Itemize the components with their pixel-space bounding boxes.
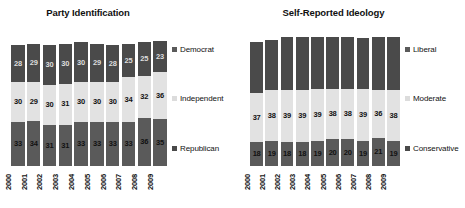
- bar-segment-independent-2003[interactable]: 31: [59, 84, 72, 125]
- bar-segment-conservative-2007[interactable]: [357, 38, 370, 89]
- bar-column-spacer: [357, 28, 370, 38]
- bar-segment-liberal-2007[interactable]: 19: [357, 141, 370, 166]
- bar-segment-conservative-2009[interactable]: [387, 37, 400, 90]
- bar-segment-republican-2008[interactable]: 25: [138, 42, 151, 75]
- bar-segment-democrat-2006[interactable]: 33: [106, 122, 119, 166]
- bar-segment-independent-2007[interactable]: 34: [122, 77, 135, 122]
- bar-segment-liberal-2000[interactable]: 18: [250, 142, 263, 166]
- bar-segment-liberal-2006[interactable]: 20: [341, 139, 354, 166]
- bar-segment-liberal-2001[interactable]: 19: [265, 141, 278, 166]
- bar-segment-conservative-2006[interactable]: [341, 37, 354, 89]
- bar-segment-conservative-2008[interactable]: [372, 37, 385, 90]
- bar-segment-liberal-2008[interactable]: 21: [372, 138, 385, 166]
- bar-column-spacer: [372, 28, 385, 37]
- legend-item-democrat[interactable]: Democrat: [172, 45, 214, 54]
- panel-title-self-reported-ideology: Self-Reported Ideology: [241, 7, 426, 18]
- bar-column-2000[interactable]: 283033: [10, 28, 26, 166]
- bar-segment-moderate-2005[interactable]: 38: [326, 89, 339, 140]
- bar-segment-conservative-2004[interactable]: [311, 37, 324, 89]
- bar-segment-liberal-2009[interactable]: 19: [387, 141, 400, 166]
- legend-item-liberal[interactable]: Liberal: [405, 45, 436, 54]
- x-tick-label: 2008: [364, 174, 373, 190]
- legend-item-conservative[interactable]: Conservative: [405, 144, 459, 153]
- bar-segment-moderate-2001[interactable]: 38: [265, 90, 278, 141]
- bar-value-label: 30: [14, 98, 22, 106]
- bar-segment-independent-2001[interactable]: 29: [27, 82, 40, 121]
- bar-segment-republican-2002[interactable]: 30: [43, 45, 56, 85]
- legend-item-republican[interactable]: Republican: [172, 144, 219, 153]
- bar-segment-liberal-2003[interactable]: 18: [296, 142, 309, 166]
- bar-column-spacer: [122, 28, 135, 44]
- legend-item-moderate[interactable]: Moderate: [405, 94, 446, 103]
- bar-segment-liberal-2002[interactable]: 18: [281, 142, 294, 166]
- bar-column-2000[interactable]: 3718: [249, 28, 264, 166]
- bar-segment-republican-2003[interactable]: 30: [59, 44, 72, 84]
- bar-segment-democrat-2003[interactable]: 31: [59, 125, 72, 166]
- bar-segment-republican-2001[interactable]: 29: [27, 44, 40, 83]
- bar-segment-democrat-2001[interactable]: 34: [27, 121, 40, 166]
- bar-column-2009[interactable]: 3819: [386, 28, 401, 166]
- bar-segment-independent-2009[interactable]: 36: [153, 72, 166, 120]
- bar-column-2008[interactable]: 253236: [136, 28, 152, 166]
- bar-segment-moderate-2004[interactable]: 39: [311, 89, 324, 141]
- bar-column-2007[interactable]: 3919: [355, 28, 370, 166]
- bar-segment-independent-2002[interactable]: 30: [43, 85, 56, 125]
- bar-column-2008[interactable]: 3621: [371, 28, 386, 166]
- bar-column-2005[interactable]: 293033: [89, 28, 105, 166]
- bar-segment-moderate-2006[interactable]: 38: [341, 89, 354, 140]
- bar-column-2004[interactable]: 3919: [310, 28, 325, 166]
- bar-column-2009[interactable]: 233635: [152, 28, 168, 166]
- bar-value-label: 28: [14, 60, 22, 68]
- bar-segment-democrat-2007[interactable]: 33: [122, 122, 135, 166]
- bar-value-label: 30: [46, 61, 54, 69]
- bar-segment-democrat-2004[interactable]: 33: [74, 122, 87, 166]
- bar-value-label: 19: [389, 150, 397, 158]
- bar-segment-republican-2000[interactable]: 28: [11, 45, 24, 82]
- bar-segment-moderate-2008[interactable]: 36: [372, 90, 385, 138]
- bar-column-2001[interactable]: 292934: [26, 28, 42, 166]
- bar-segment-conservative-2000[interactable]: [250, 42, 263, 93]
- bar-segment-democrat-2008[interactable]: 36: [138, 118, 151, 166]
- bar-segment-liberal-2005[interactable]: 20: [326, 139, 339, 166]
- bar-column-2004[interactable]: 303033: [73, 28, 89, 166]
- bar-column-2002[interactable]: 303031: [42, 28, 58, 166]
- bar-segment-moderate-2000[interactable]: 37: [250, 93, 263, 142]
- bar-segment-moderate-2003[interactable]: 39: [296, 90, 309, 142]
- bar-column-spacer: [11, 28, 24, 45]
- legend-swatch-icon: [405, 146, 410, 151]
- panel-party-identification: Party Identification 2830332929343030313…: [0, 0, 233, 208]
- bar-segment-democrat-2002[interactable]: 31: [43, 125, 56, 166]
- bar-column-2007[interactable]: 253433: [121, 28, 137, 166]
- bar-segment-independent-2006[interactable]: 30: [106, 82, 119, 122]
- bar-segment-republican-2006[interactable]: 28: [106, 45, 119, 82]
- bar-segment-republican-2005[interactable]: 29: [90, 44, 103, 83]
- bar-segment-moderate-2002[interactable]: 39: [281, 90, 294, 142]
- bar-segment-independent-2004[interactable]: 30: [74, 82, 87, 122]
- bar-segment-republican-2009[interactable]: 23: [153, 41, 166, 72]
- bar-segment-independent-2005[interactable]: 30: [90, 82, 103, 122]
- bar-column-2001[interactable]: 3819: [264, 28, 279, 166]
- bar-column-2005[interactable]: 3820: [325, 28, 340, 166]
- bar-column-spacer: [106, 28, 119, 45]
- bar-column-2006[interactable]: 283033: [105, 28, 121, 166]
- bar-segment-conservative-2001[interactable]: [265, 40, 278, 91]
- bar-column-2002[interactable]: 3918: [279, 28, 294, 166]
- bar-segment-independent-2000[interactable]: 30: [11, 82, 24, 122]
- bar-segment-moderate-2007[interactable]: 39: [357, 89, 370, 141]
- bar-segment-conservative-2003[interactable]: [296, 37, 309, 90]
- bar-segment-independent-2008[interactable]: 32: [138, 76, 151, 119]
- bar-segment-democrat-2009[interactable]: 35: [153, 119, 166, 166]
- bar-segment-conservative-2002[interactable]: [281, 37, 294, 90]
- bar-segment-conservative-2005[interactable]: [326, 37, 339, 89]
- bar-segment-democrat-2000[interactable]: 33: [11, 122, 24, 166]
- bar-segment-republican-2004[interactable]: 30: [74, 42, 87, 82]
- bar-column-2006[interactable]: 3820: [340, 28, 355, 166]
- legend-item-independent[interactable]: Independent: [172, 94, 223, 103]
- bar-segment-liberal-2004[interactable]: 19: [311, 141, 324, 166]
- bar-column-2003[interactable]: 303131: [57, 28, 73, 166]
- bar-segment-democrat-2005[interactable]: 33: [90, 122, 103, 166]
- bar-column-2003[interactable]: 3918: [295, 28, 310, 166]
- bar-segment-republican-2007[interactable]: 25: [122, 44, 135, 77]
- legend-swatch-icon: [405, 47, 410, 52]
- bar-segment-moderate-2009[interactable]: 38: [387, 90, 400, 141]
